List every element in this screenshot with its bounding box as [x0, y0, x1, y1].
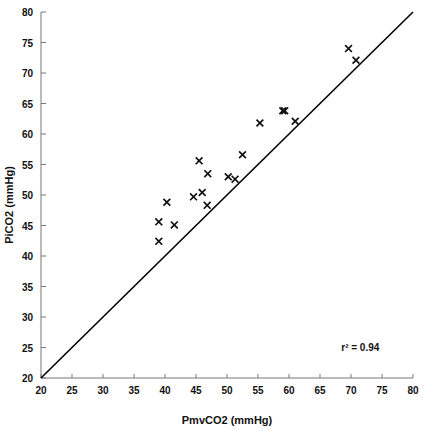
x-tick-label: 25	[66, 385, 78, 396]
y-tick-label: 45	[22, 221, 34, 232]
chart-annotations: r² = 0.94	[341, 342, 380, 353]
y-tick-label: 20	[22, 373, 34, 384]
data-point-marker	[163, 199, 170, 206]
x-tick-labels: 20253035404550556065707580	[35, 385, 419, 396]
x-tick-label: 50	[221, 385, 233, 396]
x-tick-label: 20	[35, 385, 47, 396]
x-tick-label: 80	[407, 385, 419, 396]
data-point-marker	[353, 57, 360, 64]
x-tick-label: 75	[376, 385, 388, 396]
data-point-marker	[199, 189, 206, 196]
data-point-marker	[190, 193, 197, 200]
x-tick-label: 65	[314, 385, 326, 396]
data-point-marker	[204, 170, 211, 177]
x-tick-label: 30	[97, 385, 109, 396]
x-tick-label: 45	[190, 385, 202, 396]
y-tick-label: 25	[22, 343, 34, 354]
data-point-marker	[239, 151, 246, 158]
y-tick-label: 80	[22, 7, 34, 18]
y-tick-label: 35	[22, 282, 34, 293]
y-axis-title: PiCO2 (mmHg)	[3, 166, 15, 244]
x-tick-label: 35	[128, 385, 140, 396]
y-tick-label: 65	[22, 99, 34, 110]
data-point-marker	[196, 157, 203, 164]
line-of-identity	[41, 12, 413, 378]
y-tick-label: 30	[22, 312, 34, 323]
data-point-marker	[345, 45, 352, 52]
data-points	[155, 45, 359, 245]
scatter-plot-figure: 20253035404550556065707580 2025303540455…	[0, 0, 423, 431]
y-tick-label: 60	[22, 129, 34, 140]
data-point-marker	[155, 218, 162, 225]
data-point-marker	[204, 202, 211, 209]
data-point-marker	[225, 173, 232, 180]
data-point-marker	[256, 120, 263, 127]
y-tick-label: 40	[22, 251, 34, 262]
x-tick-label: 40	[159, 385, 171, 396]
x-tick-label: 60	[283, 385, 295, 396]
data-point-marker	[155, 238, 162, 245]
y-tick-label: 75	[22, 38, 34, 49]
x-tick-label: 70	[345, 385, 357, 396]
identity-line	[41, 12, 413, 378]
r-squared: r² = 0.94	[341, 342, 380, 353]
x-axis-title: PmvCO2 (mmHg)	[182, 414, 273, 426]
y-tick-label: 55	[22, 160, 34, 171]
data-point-marker	[171, 221, 178, 228]
y-tick-labels: 20253035404550556065707580	[22, 7, 34, 384]
data-point-marker	[232, 176, 239, 183]
y-tick-label: 70	[22, 68, 34, 79]
x-tick-label: 55	[252, 385, 264, 396]
plot-canvas: 20253035404550556065707580 2025303540455…	[0, 0, 423, 431]
y-tick-label: 50	[22, 190, 34, 201]
data-point-marker	[292, 118, 299, 125]
